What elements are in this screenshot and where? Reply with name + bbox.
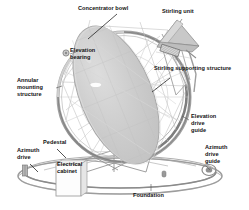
label-elevation-bearing: Elevation bearing xyxy=(70,47,95,61)
diagram-artwork xyxy=(0,0,249,210)
label-pedestal: Pedestal xyxy=(43,139,66,146)
leader-stirling-unit xyxy=(180,19,182,22)
azimuth-drive-unit xyxy=(23,165,28,176)
solar-dish-diagram: Concentrator bowl Stirling unit Elevatio… xyxy=(0,0,249,210)
leader-pedestal xyxy=(57,149,66,158)
label-elevation-drive-guide: Elevation drive guide xyxy=(191,113,216,135)
label-annular-mounting-structure: Annular mounting structure xyxy=(17,77,43,99)
label-concentrator-bowl: Concentrator bowl xyxy=(78,5,128,12)
label-stirling-unit: Stirling unit xyxy=(162,8,194,15)
label-azimuth-drive: Azimuth drive xyxy=(17,147,39,161)
foundation-roller xyxy=(162,171,166,177)
elevation-bearing xyxy=(63,50,69,56)
label-azimuth-drive-guide: Azimuth drive guide xyxy=(205,144,227,166)
label-foundation: Foundation xyxy=(133,192,164,199)
label-stirling-supporting-structure: Stirling supporting structure xyxy=(154,65,231,72)
label-electrical-cabinet: Electrical cabinet xyxy=(57,161,82,175)
